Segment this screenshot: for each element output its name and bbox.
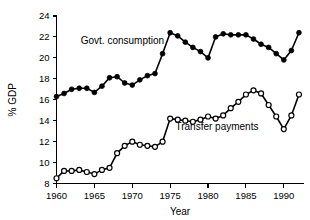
data-point-marker [130, 139, 135, 144]
x-tick-label: 1985 [235, 190, 256, 201]
x-tick-label: 1980 [197, 190, 218, 201]
data-point-marker [122, 81, 127, 86]
data-point-marker [153, 71, 158, 76]
data-point-marker [62, 168, 67, 173]
chart-container: 81012141618202224 1960196519701975198019… [0, 0, 310, 220]
data-point-marker [84, 169, 89, 174]
data-point-marker [281, 58, 286, 63]
x-axis-ticks: 1960196519701975198019851990 [46, 184, 294, 201]
data-point-marker [99, 167, 104, 172]
data-point-marker [206, 55, 211, 60]
data-point-marker [274, 114, 279, 119]
data-point-marker [198, 49, 203, 54]
data-point-marker [228, 106, 233, 111]
data-point-marker [160, 139, 165, 144]
data-point-marker [244, 32, 249, 37]
data-point-marker [168, 30, 173, 35]
y-tick-label: 16 [39, 94, 50, 105]
data-point-marker [77, 167, 82, 172]
data-point-marker [107, 165, 112, 170]
y-tick-label: 18 [39, 73, 50, 84]
data-point-marker [206, 114, 211, 119]
data-point-marker [130, 83, 135, 88]
data-point-marker [107, 75, 112, 80]
data-point-marker [145, 73, 150, 78]
data-point-marker [54, 176, 59, 181]
data-point-marker [137, 77, 142, 82]
data-point-marker [266, 45, 271, 50]
y-axis-ticks: 81012141618202224 [39, 10, 57, 189]
data-point-marker [168, 116, 173, 121]
data-point-marker [274, 51, 279, 56]
data-point-marker [69, 87, 74, 92]
data-point-marker [100, 84, 105, 89]
data-point-marker [183, 40, 188, 45]
series-label: Transfer payments [175, 121, 258, 132]
data-point-marker [115, 151, 120, 156]
y-tick-label: 14 [39, 115, 50, 126]
line-chart: 81012141618202224 1960196519701975198019… [0, 0, 310, 220]
data-point-marker [221, 31, 226, 36]
data-point-marker [221, 113, 226, 118]
data-point-marker [281, 127, 286, 132]
data-point-marker [137, 142, 142, 147]
series-layer [54, 30, 301, 180]
data-point-marker [296, 92, 301, 97]
data-point-marker [145, 143, 150, 148]
data-point-marker [92, 172, 97, 177]
data-point-marker [251, 37, 256, 42]
data-point-marker [259, 42, 264, 47]
data-point-marker [153, 144, 158, 149]
data-point-marker [236, 99, 241, 104]
y-axis-title: % GDP [7, 83, 18, 117]
y-tick-label: 24 [39, 10, 50, 21]
series-label: Govt. consumption [81, 35, 164, 46]
data-point-marker [92, 90, 97, 95]
data-point-marker [160, 51, 165, 56]
data-point-marker [175, 33, 180, 38]
data-point-marker [77, 86, 82, 91]
data-point-marker [62, 91, 67, 96]
y-tick-label: 20 [39, 52, 50, 63]
data-point-marker [236, 32, 241, 37]
data-point-marker [228, 32, 233, 37]
y-tick-label: 8 [44, 178, 49, 189]
data-point-marker [213, 35, 218, 40]
y-tick-label: 12 [39, 136, 50, 147]
data-series [54, 88, 301, 181]
x-tick-label: 1965 [84, 190, 105, 201]
data-point-marker [115, 74, 120, 79]
data-point-marker [122, 143, 127, 148]
x-tick-label: 1975 [160, 190, 181, 201]
data-point-marker [54, 94, 59, 99]
data-point-marker [289, 48, 294, 53]
data-point-marker [243, 92, 248, 97]
data-point-marker [84, 86, 89, 91]
x-axis-title: Year [170, 206, 191, 217]
y-tick-label: 22 [39, 31, 50, 42]
data-point-marker [259, 91, 264, 96]
x-tick-label: 1990 [273, 190, 294, 201]
data-point-marker [251, 88, 256, 93]
x-tick-label: 1960 [46, 190, 67, 201]
data-point-marker [69, 168, 74, 173]
data-point-marker [289, 113, 294, 118]
y-tick-label: 10 [39, 157, 50, 168]
x-tick-label: 1970 [122, 190, 143, 201]
data-point-marker [297, 30, 302, 35]
data-point-marker [190, 45, 195, 50]
series-polyline [57, 90, 299, 178]
data-point-marker [266, 102, 271, 107]
